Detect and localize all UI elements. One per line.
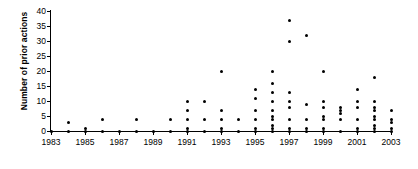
data-point [169, 118, 172, 121]
data-point [271, 115, 274, 118]
y-tick-mark [47, 56, 51, 57]
data-point [271, 82, 274, 85]
data-point [220, 118, 223, 121]
y-tick-mark [47, 26, 51, 27]
data-point [101, 130, 104, 133]
data-point [254, 97, 257, 100]
data-point [84, 130, 87, 133]
data-point [356, 130, 359, 133]
x-tick-label: 1985 [76, 137, 95, 147]
data-point [305, 103, 308, 106]
data-point [305, 34, 308, 37]
data-point [288, 106, 291, 109]
data-point [237, 130, 240, 133]
data-point [220, 70, 223, 73]
data-point [339, 112, 342, 115]
data-point [288, 130, 291, 133]
data-point [322, 70, 325, 73]
y-tick-label: 0 [41, 126, 46, 136]
data-point [186, 100, 189, 103]
data-point [271, 127, 274, 130]
data-point [373, 109, 376, 112]
data-point [339, 109, 342, 112]
plot-area: 0510152025303540 19831985198719891991199… [51, 11, 391, 131]
y-tick-label: 25 [37, 51, 46, 61]
x-tick-label: 1993 [212, 137, 231, 147]
data-point [339, 118, 342, 121]
x-tick-label: 1989 [144, 137, 163, 147]
x-tick-label: 1999 [314, 137, 333, 147]
y-tick-mark [47, 11, 51, 12]
data-point [135, 130, 138, 133]
data-point [271, 100, 274, 103]
data-point [356, 88, 359, 91]
data-point [373, 127, 376, 130]
x-tick-label: 1997 [280, 137, 299, 147]
data-point [271, 70, 274, 73]
data-point [322, 115, 325, 118]
data-point [220, 109, 223, 112]
data-point [356, 118, 359, 121]
y-tick-label: 40 [37, 6, 46, 16]
data-point [390, 109, 393, 112]
y-tick-label: 10 [37, 96, 46, 106]
y-tick-label: 20 [37, 66, 46, 76]
data-point [118, 130, 121, 133]
data-point [288, 19, 291, 22]
data-point [373, 130, 376, 133]
y-tick-label: 15 [37, 81, 46, 91]
data-point [220, 130, 223, 133]
y-tick-mark [47, 116, 51, 117]
data-point [169, 130, 172, 133]
data-point [288, 118, 291, 121]
data-point [373, 100, 376, 103]
data-point [220, 127, 223, 130]
data-point [373, 124, 376, 127]
data-point [152, 130, 155, 133]
data-point [135, 118, 138, 121]
data-point [254, 109, 257, 112]
y-tick-label: 5 [41, 111, 46, 121]
data-point [186, 130, 189, 133]
data-point [271, 91, 274, 94]
data-point [356, 100, 359, 103]
data-point [271, 109, 274, 112]
data-point [322, 127, 325, 130]
data-point [288, 91, 291, 94]
data-point [305, 130, 308, 133]
data-point [203, 118, 206, 121]
data-point [305, 118, 308, 121]
x-tick-label: 1987 [110, 137, 129, 147]
y-tick-mark [47, 86, 51, 87]
x-tick-label: 2003 [382, 137, 401, 147]
data-point [356, 106, 359, 109]
data-point [203, 100, 206, 103]
data-point [288, 127, 291, 130]
data-point [288, 40, 291, 43]
data-point [373, 118, 376, 121]
data-point [67, 121, 70, 124]
data-point [254, 118, 257, 121]
data-point [322, 100, 325, 103]
data-point [237, 118, 240, 121]
data-point [288, 100, 291, 103]
data-point [339, 130, 342, 133]
y-tick-mark [47, 41, 51, 42]
data-point [203, 130, 206, 133]
x-tick-label: 1983 [42, 137, 61, 147]
data-point [271, 118, 274, 121]
data-point [390, 121, 393, 124]
x-tick-label: 1995 [246, 137, 265, 147]
y-tick-label: 30 [37, 36, 46, 46]
y-tick-mark [47, 71, 51, 72]
data-point [322, 130, 325, 133]
data-point [254, 127, 257, 130]
data-point [322, 106, 325, 109]
data-point [186, 118, 189, 121]
data-point [390, 118, 393, 121]
data-point [254, 130, 257, 133]
data-point [84, 127, 87, 130]
data-point [254, 88, 257, 91]
y-tick-label: 35 [37, 21, 46, 31]
data-point [67, 130, 70, 133]
